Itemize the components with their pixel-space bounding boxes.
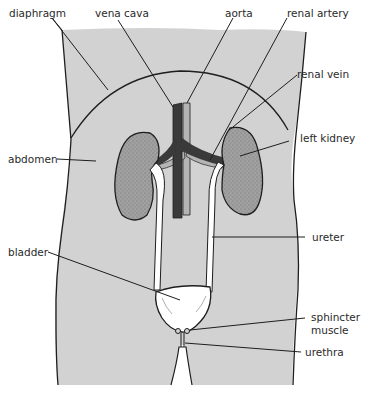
leader-diaphragm-2 xyxy=(52,18,62,30)
vena-cava xyxy=(173,103,182,218)
label-vena-cava: vena cava xyxy=(95,7,149,19)
label-ureter: ureter xyxy=(312,231,344,243)
label-renal-vein: renal vein xyxy=(297,68,349,80)
label-aorta: aorta xyxy=(225,7,253,19)
label-diaphragm: diaphragm xyxy=(9,7,66,19)
label-sphincter-line1: sphincter xyxy=(311,311,360,323)
label-bladder: bladder xyxy=(8,246,48,258)
label-left-kidney: left kidney xyxy=(300,132,355,144)
label-abdomen: abdomen xyxy=(8,153,58,165)
label-renal-artery: renal artery xyxy=(287,7,349,19)
sphincter-muscle-right xyxy=(185,329,190,334)
sphincter-muscle-left xyxy=(176,329,181,334)
label-urethra: urethra xyxy=(305,346,344,358)
label-sphincter-line2: muscle xyxy=(311,324,349,336)
